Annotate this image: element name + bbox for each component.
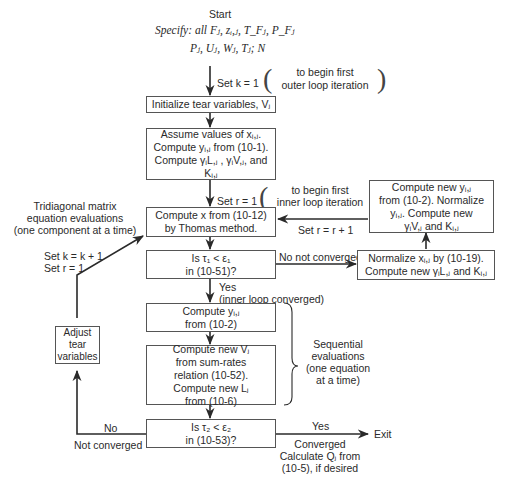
- outer-note-2: outer loop iteration: [270, 79, 380, 92]
- tridiagonal-note-3: (one component at a time): [10, 224, 140, 237]
- compute-y-box: Compute yᵢ,ⱼ from (10-2): [146, 303, 276, 332]
- tridiagonal-note-2: equation evaluations: [10, 212, 140, 225]
- sequential-note-3: (one equation: [298, 362, 378, 375]
- connector-lines: [0, 0, 512, 479]
- initialize-tear-variables-box: Initialize tear variables, Vⱼ: [146, 96, 276, 113]
- compute-new-y-line-2: from (10-2). Normalize: [379, 194, 484, 207]
- inner-note-2: inner loop iteration: [265, 196, 375, 209]
- compute-v-line-1: Compute new Vⱼ: [173, 343, 250, 356]
- compute-v-line-2: from sum-rates: [176, 356, 247, 369]
- exit-label: Exit: [374, 428, 392, 441]
- assume-line-2: Compute yᵢ,ⱼ from (10-1).: [154, 141, 269, 154]
- compute-new-y-line-4: γᵢV,ⱼ and Kᵢ,ⱼ: [404, 220, 458, 233]
- compute-v-line-5: from (10-6): [185, 395, 237, 408]
- calc-q-line-1: Calculate Qⱼ from: [270, 450, 370, 463]
- set-k-increment-label: Set k = k + 1: [44, 250, 103, 263]
- inner-convergence-check-box: Is τ₁ < ε₁ in (10-51)?: [146, 250, 276, 279]
- compute-new-y-box: Compute new yᵢ,ⱼ from (10-2). Normalize …: [369, 180, 494, 233]
- set-r-label: Set r = 1: [217, 195, 257, 208]
- sequential-note-4: at a time): [298, 374, 378, 387]
- specify-line-2: Pⱼ, Uⱼ, Wⱼ, Tⱼ; N: [190, 42, 265, 55]
- thomas-method-box: Compute x from (10-12) by Thomas method.: [146, 207, 276, 237]
- compute-v-line-4: Compute new Lⱼ: [173, 382, 248, 395]
- initialize-text: Initialize tear variables, Vⱼ: [152, 98, 271, 111]
- adjust-line-2: tear: [69, 339, 86, 351]
- compute-new-y-line-3: yᵢ,ⱼ. Compute new: [390, 207, 472, 220]
- check2-line-1: Is τ₂ < ε₂: [191, 421, 231, 434]
- calc-q-line-2: (10-5), if desired: [270, 462, 370, 475]
- check1-line-1: Is τ₁ < ε₁: [192, 252, 231, 265]
- normalize-x-line-1: Normalize xᵢ,ⱼ by (10-19).: [368, 252, 484, 265]
- no-not-converged-label: No not converged: [279, 251, 362, 264]
- assume-line-3: Compute γᵢL,ⱼ , γᵢV,ⱼ, and Kᵢ,ⱼ: [147, 154, 275, 180]
- compute-v-line-3: relation (10-52).: [174, 369, 248, 382]
- not-converged-label: Not converged: [74, 439, 142, 452]
- yes-label: Yes: [312, 420, 329, 433]
- adjust-tear-variables-box: Adjust tear variables: [55, 326, 100, 364]
- check2-line-2: in (10-53)?: [186, 434, 237, 447]
- reset-r-label: Set r = 1: [44, 262, 84, 275]
- sequential-note-2: evaluations: [298, 350, 378, 363]
- compute-new-y-line-1: Compute new yᵢ,ⱼ: [392, 181, 471, 194]
- specify-line-1: Specify: all Fⱼ, zᵢ,ⱼ, T_Fⱼ, P_Fⱼ: [155, 24, 295, 37]
- assume-line-1: Assume values of xᵢ,ⱼ.: [161, 128, 261, 141]
- sequential-note-1: Sequential: [298, 338, 378, 351]
- right-paren-icon: ): [377, 65, 386, 93]
- check1-line-2: in (10-51)?: [186, 265, 237, 278]
- adjust-line-1: Adjust: [64, 327, 92, 339]
- start-label: Start: [190, 8, 250, 21]
- set-r-increment-label: Set r = r + 1: [298, 224, 353, 237]
- normalize-x-box: Normalize xᵢ,ⱼ by (10-19). Compute new γ…: [357, 250, 495, 280]
- outer-convergence-check-box: Is τ₂ < ε₂ in (10-53)?: [146, 419, 276, 448]
- flowchart: Start Specify: all Fⱼ, zᵢ,ⱼ, T_Fⱼ, P_Fⱼ …: [0, 0, 512, 479]
- normalize-x-line-2: Compute new γᵢL,ⱼ and Kᵢ,ⱼ: [365, 265, 487, 278]
- compute-v-box: Compute new Vⱼ from sum-rates relation (…: [146, 345, 276, 405]
- compute-y-line-1: Compute yᵢ,ⱼ: [182, 305, 239, 318]
- adjust-line-3: variables: [57, 351, 97, 363]
- inner-note-1: to begin first: [265, 184, 375, 197]
- converged-label: Converged: [270, 438, 370, 451]
- yes-inner-label: Yes: [219, 281, 236, 294]
- assume-values-box: Assume values of xᵢ,ⱼ. Compute yᵢ,ⱼ from…: [146, 128, 276, 180]
- compute-y-line-2: from (10-2): [185, 318, 237, 331]
- thomas-line-1: Compute x from (10-12): [155, 209, 266, 222]
- outer-note-1: to begin first: [270, 66, 380, 79]
- thomas-line-2: by Thomas method.: [165, 222, 258, 235]
- set-k-label: Set k = 1: [217, 77, 259, 90]
- tridiagonal-note-1: Tridiagonal matrix: [10, 200, 140, 213]
- no-label: No: [104, 422, 117, 435]
